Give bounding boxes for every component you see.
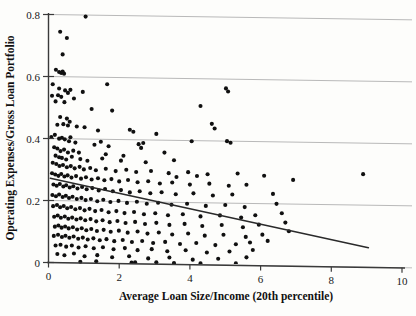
x-tick-label: 0 <box>46 270 52 282</box>
data-point <box>154 132 158 136</box>
data-point <box>65 117 69 121</box>
data-point <box>92 246 96 250</box>
data-point <box>260 233 264 237</box>
data-point <box>125 201 129 205</box>
data-point <box>211 193 215 197</box>
data-point <box>68 135 72 139</box>
data-point <box>94 168 98 172</box>
data-point <box>59 172 63 176</box>
data-point <box>81 90 85 94</box>
data-point <box>132 210 136 214</box>
data-point <box>104 167 108 171</box>
data-point <box>59 95 63 99</box>
data-point <box>70 195 74 199</box>
data-point <box>86 237 90 241</box>
data-point <box>71 225 75 229</box>
data-point <box>158 181 162 185</box>
data-point <box>64 245 68 249</box>
y-tick-label: 0.6 <box>26 71 40 83</box>
data-point <box>67 139 71 143</box>
data-point <box>54 99 58 103</box>
data-point <box>104 152 108 156</box>
data-point <box>109 177 113 181</box>
data-point <box>170 180 174 184</box>
data-point <box>89 197 93 201</box>
data-point <box>95 253 99 257</box>
data-point <box>65 36 69 40</box>
data-point <box>69 176 73 180</box>
data-point <box>83 208 87 212</box>
data-point <box>72 97 76 101</box>
data-point <box>271 192 275 196</box>
data-point <box>253 213 257 217</box>
data-point <box>88 166 92 170</box>
data-point <box>174 192 178 196</box>
data-point <box>61 52 65 56</box>
data-point <box>72 234 76 238</box>
data-point <box>225 139 229 143</box>
data-point <box>167 255 171 259</box>
x-tick-label: 4 <box>187 272 193 284</box>
data-point <box>66 91 70 95</box>
data-point <box>63 234 67 238</box>
data-point <box>102 228 106 232</box>
data-point <box>67 226 71 230</box>
data-point <box>108 200 112 204</box>
data-point <box>65 206 69 210</box>
data-point <box>78 206 82 210</box>
data-point <box>79 196 83 200</box>
data-point <box>50 94 54 98</box>
data-point <box>117 229 121 233</box>
data-point <box>93 209 97 213</box>
x-tick-label: 2 <box>116 271 122 283</box>
data-point <box>148 191 152 195</box>
data-point <box>146 256 150 260</box>
data-point <box>77 245 81 249</box>
data-point <box>79 177 83 181</box>
data-point <box>98 238 102 242</box>
data-point <box>119 159 123 163</box>
data-point <box>54 244 58 248</box>
data-point <box>283 221 287 225</box>
data-point <box>57 164 61 168</box>
data-point <box>90 177 94 181</box>
data-point <box>142 212 146 216</box>
data-point <box>198 214 202 218</box>
data-point <box>63 137 67 141</box>
data-point <box>146 179 150 183</box>
data-point <box>74 217 78 221</box>
data-point <box>89 227 93 231</box>
y-tick-label: 0.4 <box>26 133 40 145</box>
data-point <box>116 199 120 203</box>
data-point <box>51 161 55 165</box>
data-point <box>60 156 64 160</box>
data-point <box>73 141 77 145</box>
data-point <box>145 232 149 236</box>
data-point <box>128 190 132 194</box>
x-tick-label: 6 <box>258 273 264 285</box>
data-point <box>126 231 130 235</box>
data-point <box>191 258 195 262</box>
y-tick-label: 0 <box>35 257 41 269</box>
data-point <box>117 179 121 183</box>
data-point <box>89 217 93 221</box>
data-point <box>205 250 209 254</box>
data-point <box>194 241 198 245</box>
data-point <box>174 175 178 179</box>
data-point <box>67 196 71 200</box>
data-point <box>143 222 147 226</box>
data-point <box>75 124 79 128</box>
data-point <box>78 157 82 161</box>
data-point <box>149 169 153 173</box>
scatter-plot-figure: 00.20.40.60.8 0246810 Average Loan Size/… <box>0 0 416 316</box>
data-point <box>234 242 238 246</box>
data-point <box>55 123 59 127</box>
data-point <box>62 204 66 208</box>
data-point <box>101 245 105 249</box>
data-point <box>63 215 67 219</box>
data-point <box>107 144 111 148</box>
data-point <box>167 223 171 227</box>
data-point <box>163 240 167 244</box>
data-point <box>55 147 59 151</box>
data-point <box>123 246 127 250</box>
